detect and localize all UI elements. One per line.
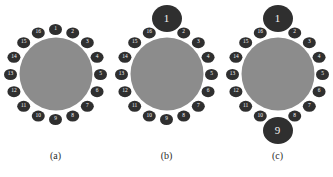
ring-node-label: 3 — [308, 39, 311, 44]
ring-node-label: 2 — [71, 30, 74, 35]
ring-node-label: 10 — [147, 113, 152, 118]
ring-node-8[interactable]: 8 — [288, 110, 301, 121]
ring-node-3[interactable]: 3 — [81, 37, 94, 48]
ring-node-7[interactable]: 7 — [303, 100, 316, 111]
ring-node-2[interactable]: 2 — [177, 27, 190, 38]
ring-node-3[interactable]: 3 — [303, 37, 316, 48]
ring-node-label: 13 — [119, 71, 124, 76]
panel-c: 12345678910111213141516(c) — [222, 0, 333, 177]
ring-node-10[interactable]: 10 — [32, 110, 45, 121]
ring-node-label: 11 — [243, 103, 248, 108]
ring-node-8[interactable]: 8 — [66, 110, 79, 121]
ring-node-label: 12 — [233, 89, 238, 94]
ring-node-label: 9 — [165, 116, 168, 121]
ring-node-8[interactable]: 8 — [177, 110, 190, 121]
ring-node-label: 4 — [318, 54, 321, 59]
ring-node-label: 8 — [71, 113, 74, 118]
ring-node-label: 5 — [210, 71, 213, 76]
ring-node-label: 14 — [233, 54, 238, 59]
ring-node-12[interactable]: 12 — [229, 86, 242, 97]
ring-node-7[interactable]: 7 — [81, 100, 94, 111]
ring-node-13[interactable]: 13 — [115, 69, 128, 80]
ring-node-11[interactable]: 11 — [128, 100, 141, 111]
ring-node-9[interactable]: 9 — [49, 114, 62, 125]
ring-node-12[interactable]: 12 — [118, 86, 131, 97]
ring-node-9[interactable]: 9 — [160, 114, 173, 125]
ring-node-6[interactable]: 6 — [91, 86, 104, 97]
ring-node-label: 6 — [96, 89, 99, 94]
ring-node-label: 16 — [147, 30, 152, 35]
ring-node-4[interactable]: 4 — [202, 51, 215, 62]
ring-node-11[interactable]: 11 — [17, 100, 30, 111]
ring-node-label: 6 — [318, 89, 321, 94]
panel-caption-b: (b) — [111, 150, 222, 161]
ring-node-7[interactable]: 7 — [192, 100, 205, 111]
ring-node-16[interactable]: 16 — [143, 27, 156, 38]
ring-node-label: 4 — [96, 54, 99, 59]
ring-node-15[interactable]: 15 — [128, 37, 141, 48]
ring-node-12[interactable]: 12 — [7, 86, 20, 97]
ring-node-3[interactable]: 3 — [192, 37, 205, 48]
ring-node-5[interactable]: 5 — [316, 69, 329, 80]
ring-node-1[interactable]: 1 — [49, 24, 62, 35]
ring-node-1[interactable]: 1 — [152, 5, 182, 32]
ring-node-10[interactable]: 10 — [143, 110, 156, 121]
ring-node-label: 11 — [132, 103, 137, 108]
ring-node-10[interactable]: 10 — [254, 110, 267, 121]
ring-node-label: 5 — [321, 71, 324, 76]
ring-node-label: 1 — [164, 13, 170, 24]
ring-node-2[interactable]: 2 — [66, 27, 79, 38]
ring-node-label: 15 — [132, 39, 137, 44]
ring-node-label: 7 — [197, 103, 200, 108]
ring-node-label: 2 — [182, 30, 185, 35]
ring-topology-figure: 12345678910111213141516(a)12345678910111… — [0, 0, 333, 177]
ring-node-16[interactable]: 16 — [254, 27, 267, 38]
ring-node-6[interactable]: 6 — [202, 86, 215, 97]
ring-node-15[interactable]: 15 — [239, 37, 252, 48]
ring-node-label: 5 — [99, 71, 102, 76]
ring-node-label: 13 — [8, 71, 13, 76]
panel-a: 12345678910111213141516(a) — [0, 0, 111, 177]
ring-node-label: 1 — [54, 26, 57, 31]
ring-node-label: 16 — [258, 30, 263, 35]
ring-node-5[interactable]: 5 — [205, 69, 218, 80]
ring-node-13[interactable]: 13 — [4, 69, 17, 80]
ring-node-label: 16 — [36, 30, 41, 35]
ring-node-label: 7 — [308, 103, 311, 108]
ring-node-label: 7 — [86, 103, 89, 108]
ring-node-label: 4 — [207, 54, 210, 59]
panel-b: 12345678910111213141516(b) — [111, 0, 222, 177]
center-disc — [241, 38, 314, 111]
ring-node-1[interactable]: 1 — [263, 5, 293, 32]
ring-node-label: 12 — [122, 89, 127, 94]
ring-node-14[interactable]: 14 — [229, 51, 242, 62]
ring-node-label: 10 — [36, 113, 41, 118]
ring-node-label: 9 — [54, 116, 57, 121]
center-disc — [19, 38, 92, 111]
ring-node-label: 13 — [230, 71, 235, 76]
ring-node-label: 10 — [258, 113, 263, 118]
ring-node-label: 11 — [21, 103, 26, 108]
ring-node-label: 2 — [293, 30, 296, 35]
ring-node-label: 3 — [197, 39, 200, 44]
ring-node-16[interactable]: 16 — [32, 27, 45, 38]
panel-caption-c: (c) — [222, 150, 333, 161]
ring-node-4[interactable]: 4 — [91, 51, 104, 62]
ring-node-6[interactable]: 6 — [313, 86, 326, 97]
ring-node-4[interactable]: 4 — [313, 51, 326, 62]
ring-node-label: 9 — [275, 125, 281, 136]
ring-node-9[interactable]: 9 — [263, 117, 293, 144]
center-disc — [130, 38, 203, 111]
ring-node-13[interactable]: 13 — [226, 69, 239, 80]
ring-node-label: 6 — [207, 89, 210, 94]
ring-node-14[interactable]: 14 — [118, 51, 131, 62]
ring-node-label: 12 — [11, 89, 16, 94]
ring-node-15[interactable]: 15 — [17, 37, 30, 48]
ring-node-2[interactable]: 2 — [288, 27, 301, 38]
ring-node-14[interactable]: 14 — [7, 51, 20, 62]
ring-node-5[interactable]: 5 — [94, 69, 107, 80]
ring-node-label: 14 — [122, 54, 127, 59]
ring-node-11[interactable]: 11 — [239, 100, 252, 111]
ring-node-label: 3 — [86, 39, 89, 44]
panel-caption-a: (a) — [0, 150, 111, 161]
